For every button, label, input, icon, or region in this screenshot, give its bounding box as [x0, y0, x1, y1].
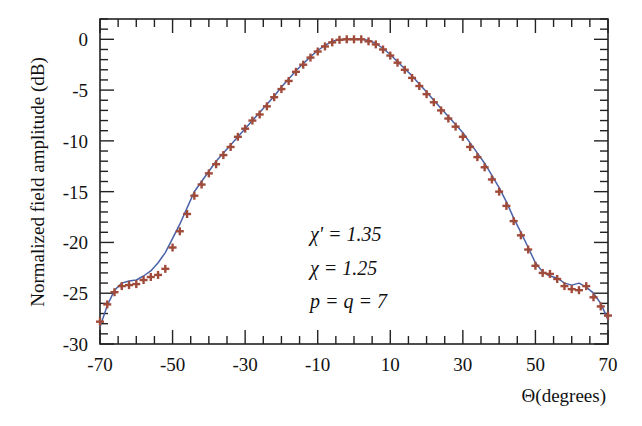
chart: 0-5-10-15-20-25-30 -70-50-30-1010305070 …	[0, 0, 642, 426]
x-tick-label: 30	[453, 354, 472, 375]
y-tick-label: 0	[79, 29, 89, 50]
data-point-marker	[430, 98, 438, 106]
data-point-marker	[328, 38, 336, 46]
data-point-marker	[452, 123, 460, 131]
annotation-pq: p = q = 7	[308, 290, 388, 313]
x-tick-labels: -70-50-30-1010305070	[87, 354, 617, 375]
x-tick-label: -30	[232, 354, 257, 375]
data-point-marker	[423, 90, 431, 98]
data-point-marker	[161, 265, 169, 273]
data-point-marker	[154, 271, 162, 279]
x-tick-label: -10	[305, 354, 330, 375]
data-point-marker	[437, 106, 445, 114]
data-point-marker	[227, 143, 235, 151]
y-tick-label: -10	[63, 131, 88, 152]
data-point-marker	[459, 133, 467, 141]
data-point-marker	[357, 35, 365, 43]
data-point-marker	[212, 160, 220, 168]
x-tick-label: -70	[87, 354, 112, 375]
x-tick-label: 50	[526, 354, 545, 375]
y-tick-label: -25	[63, 283, 88, 304]
y-axis-label: Normalized field amplitude (dB)	[27, 57, 49, 307]
data-point-marker	[481, 163, 489, 171]
x-axis-label: Θ(degrees)	[522, 385, 606, 407]
data-point-marker	[473, 153, 481, 161]
data-point-marker	[350, 35, 358, 43]
data-point-marker	[466, 143, 474, 151]
data-point-marker	[335, 36, 343, 44]
y-tick-label: -20	[63, 232, 88, 253]
data-point-marker	[147, 273, 155, 281]
data-point-marker	[183, 210, 191, 218]
data-point-marker	[568, 285, 576, 293]
data-point-marker	[198, 181, 206, 189]
data-point-marker	[539, 269, 547, 277]
data-point-marker	[285, 77, 293, 85]
data-point-marker	[219, 151, 227, 159]
y-tick-label: -30	[63, 334, 88, 355]
data-point-marker	[575, 286, 583, 294]
simulated-line-series	[100, 39, 608, 326]
x-tick-label: -50	[160, 354, 185, 375]
y-tick-label: -5	[72, 80, 88, 101]
data-point-marker	[277, 85, 285, 93]
data-point-marker	[365, 37, 373, 45]
data-point-marker	[444, 115, 452, 123]
measured-marker-series	[96, 35, 612, 325]
data-point-marker	[415, 82, 423, 90]
annotation-chi: χ = 1.25	[308, 257, 377, 280]
x-tick-label: 10	[381, 354, 400, 375]
annotation-box: χ' = 1.35 χ = 1.25 p = q = 7	[308, 223, 388, 313]
data-point-marker	[488, 175, 496, 183]
data-point-marker	[408, 74, 416, 82]
data-point-marker	[343, 35, 351, 43]
annotation-chi-prime: χ' = 1.35	[308, 223, 382, 246]
data-point-marker	[589, 293, 597, 301]
data-point-marker	[118, 282, 126, 290]
y-tick-labels: 0-5-10-15-20-25-30	[63, 29, 88, 355]
data-point-marker	[553, 275, 561, 283]
data-point-marker	[263, 102, 271, 110]
data-point-marker	[256, 110, 264, 118]
data-point-marker	[103, 300, 111, 308]
data-point-marker	[132, 280, 140, 288]
y-tick-label: -15	[63, 182, 88, 203]
data-point-marker	[531, 262, 539, 270]
x-tick-label: 70	[599, 354, 618, 375]
